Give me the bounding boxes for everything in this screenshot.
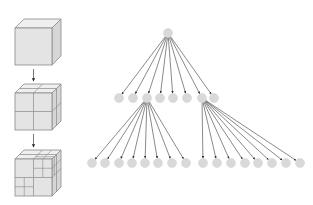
tree-level2-node [282, 159, 291, 168]
tree-level2-node [101, 159, 110, 168]
tree-level2-node [254, 159, 263, 168]
tree-root-node [164, 29, 173, 38]
tree-level1-node [129, 94, 138, 103]
tree-level1-node [169, 94, 178, 103]
cube-level-2 [15, 150, 61, 196]
tree-level1-node [156, 94, 165, 103]
tree-level2-node [241, 159, 250, 168]
cube-subdivision-column [15, 19, 61, 196]
cube-level-1 [15, 84, 61, 130]
tree-level1-node [143, 94, 152, 103]
cube-level-0 [15, 19, 61, 65]
tree-level1-node [210, 94, 219, 103]
tree-level2-node [88, 159, 97, 168]
tree-level2-node [213, 159, 222, 168]
tree-level2-node [227, 159, 236, 168]
octree-figure [0, 0, 313, 205]
tree-level2-node [199, 159, 208, 168]
tree-level2-node [296, 159, 305, 168]
tree-level2-node [154, 159, 163, 168]
tree-edges [95, 37, 296, 161]
tree-level2-node [168, 159, 177, 168]
tree-level2-node [268, 159, 277, 168]
tree-level2-node [141, 159, 150, 168]
tree-level1-node [183, 94, 192, 103]
tree-level2-node [115, 159, 124, 168]
tree-level2-node [128, 159, 137, 168]
tree-level2-node [182, 159, 191, 168]
tree-level1-node [115, 94, 124, 103]
tree-level1-node [198, 94, 207, 103]
tree-nodes [88, 29, 305, 168]
